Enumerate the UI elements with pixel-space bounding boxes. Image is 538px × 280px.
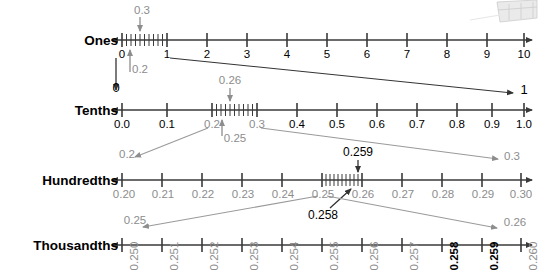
- annotation-thousandths-left: 0.25: [124, 214, 146, 226]
- tick-label-tenths-3: 0.3: [249, 118, 265, 130]
- connector-hundredths025-to-thousandths: [143, 196, 318, 227]
- tick-label-ones-8: 8: [444, 48, 450, 60]
- tick-label-tenths-6: 0.6: [369, 118, 385, 130]
- tick-label-thousandths-2: 0.252: [208, 242, 220, 271]
- tick-label-hundredths-1: 0.21: [152, 188, 174, 200]
- connector-tenths03-to-hundredths: [261, 128, 498, 159]
- number-line-figure: Ones Tenths Hundredths Thousandths 0 1 2…: [0, 0, 538, 280]
- annotation-ones-top: 0.3: [134, 4, 150, 16]
- tick-label-ones-10: 10: [518, 48, 531, 60]
- tick-label-thousandths-4: 0.254: [288, 242, 300, 271]
- tick-label-ones-6: 6: [364, 48, 370, 60]
- connector-hundredths026-to-thousandths: [327, 196, 497, 228]
- tick-label-ones-3: 3: [244, 48, 250, 60]
- tick-label-tenths-5: 0.5: [329, 118, 345, 130]
- tenths-number-line: [112, 88, 532, 136]
- annotation-tenths-top: 0.26: [219, 74, 241, 86]
- tick-label-tenths-0: 0.0: [114, 118, 130, 130]
- tick-label-thousandths-10: 0.260: [527, 242, 538, 271]
- tick-label-ones-7: 7: [404, 48, 410, 60]
- tick-label-hundredths-0: 0.20: [113, 188, 135, 200]
- tick-label-hundredths-2: 0.22: [192, 188, 214, 200]
- scan-artifact: [470, 0, 537, 22]
- tick-label-ones-1: 1: [164, 48, 170, 60]
- annotation-hundredths-below: 0.258: [308, 208, 338, 222]
- tick-label-ones-4: 4: [284, 48, 290, 60]
- tick-label-thousandths-9: 0.259: [488, 242, 500, 271]
- tick-label-tenths-8: 0.8: [449, 118, 465, 130]
- annotation-ones-below: 0.2: [132, 63, 148, 75]
- tick-label-tenths-2: 0.2: [204, 118, 220, 130]
- annotation-tenths-end-left: 0: [112, 80, 119, 95]
- row-label-thousandths: Thousandths: [0, 238, 118, 253]
- tick-label-tenths-4: 0.4: [289, 118, 305, 130]
- tick-label-ones-0: 0: [119, 48, 125, 60]
- tick-label-ones-9: 9: [484, 48, 490, 60]
- tick-label-hundredths-10: 0.30: [510, 188, 532, 200]
- tick-label-thousandths-3: 0.253: [248, 242, 260, 271]
- tick-label-thousandths-7: 0.257: [408, 242, 420, 271]
- tick-label-hundredths-8: 0.28: [432, 188, 454, 200]
- annotation-hundredths-top: 0.259: [343, 145, 373, 159]
- row-label-hundredths: Hundredths: [0, 173, 118, 188]
- tick-label-tenths-7: 0.7: [409, 118, 425, 130]
- annotation-tenths-end-right: 1: [520, 82, 527, 97]
- tick-label-thousandths-5: 0.255: [328, 242, 340, 271]
- tick-label-ones-5: 5: [324, 48, 330, 60]
- tick-label-thousandths-8: 0.258: [448, 242, 460, 271]
- row-label-tenths: Tenths: [0, 103, 118, 118]
- tick-label-tenths-10: 1.0: [516, 118, 532, 130]
- tick-label-hundredths-5: 0.25: [312, 188, 334, 200]
- annotation-tenths-below: 0.25: [224, 132, 246, 144]
- tick-label-hundredths-9: 0.29: [472, 188, 494, 200]
- annotation-hundredths-right: 0.3: [504, 150, 520, 162]
- tick-label-hundredths-3: 0.23: [232, 188, 254, 200]
- tick-label-hundredths-4: 0.24: [272, 188, 294, 200]
- hundredths-number-line: [112, 160, 532, 208]
- connector-tenths02-to-hundredths: [135, 128, 208, 157]
- tick-label-thousandths-0: 0.250: [128, 242, 140, 271]
- row-label-ones: Ones: [0, 33, 118, 48]
- tick-label-tenths-9: 0.9: [484, 118, 500, 130]
- tick-label-tenths-1: 0.1: [159, 118, 175, 130]
- annotation-thousandths-right: 0.26: [504, 216, 526, 228]
- tick-label-hundredths-6: 0.26: [352, 188, 374, 200]
- ones-number-line: [112, 17, 532, 72]
- tick-label-thousandths-1: 0.251: [168, 242, 180, 271]
- annotation-hundredths-left: 0.2: [119, 148, 135, 160]
- tick-label-ones-2: 2: [204, 48, 210, 60]
- tick-label-thousandths-6: 0.256: [368, 242, 380, 271]
- tick-label-hundredths-7: 0.27: [392, 188, 414, 200]
